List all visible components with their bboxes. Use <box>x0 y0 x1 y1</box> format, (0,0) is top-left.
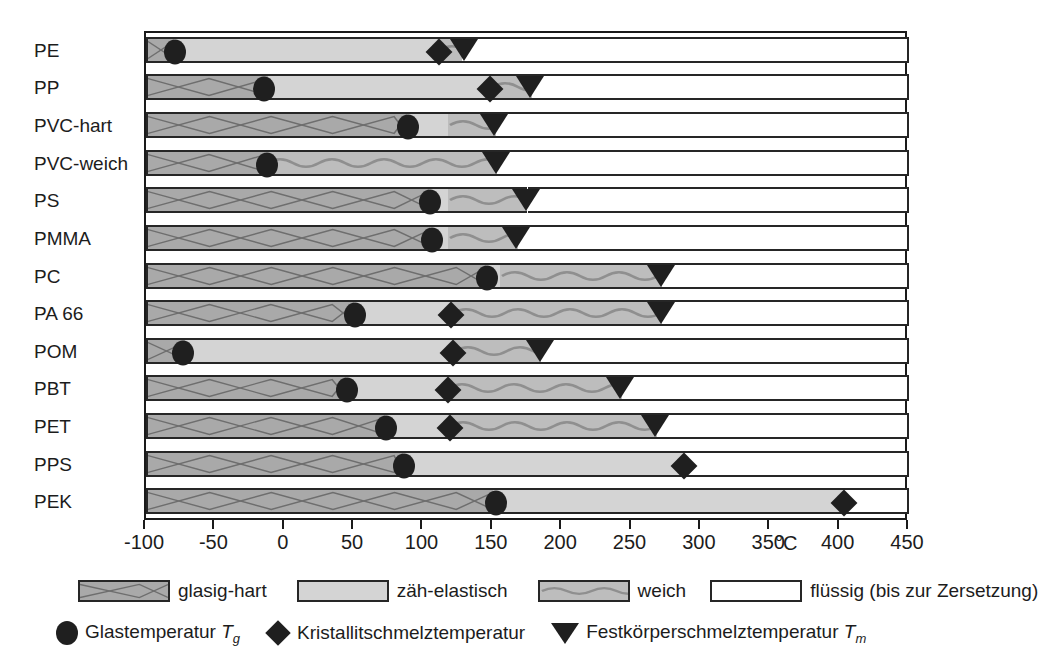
solid-melt-marker <box>647 302 675 324</box>
plot-area <box>144 31 907 520</box>
glass-temperature-marker <box>256 152 278 177</box>
segment-glasig <box>146 375 346 401</box>
segment-weich <box>265 150 497 176</box>
legend-marker-label: Kristallitschmelztemperatur <box>297 622 525 644</box>
legend-marker-circle-icon <box>56 621 78 645</box>
segment-glasig <box>146 74 268 100</box>
glass-temperature-marker <box>419 190 441 215</box>
glass-temperature-marker <box>164 39 186 64</box>
segment-weich <box>448 413 656 439</box>
legend-swatch-empty <box>710 580 802 602</box>
segment-fluessig <box>462 37 909 63</box>
axis-tick <box>490 520 492 529</box>
glass-temperature-marker <box>336 378 358 403</box>
segment-fluessig <box>541 338 909 364</box>
legend-markers-row: Glastemperatur TgKristallitschmelztemper… <box>56 618 892 648</box>
category-label: PET <box>34 417 71 436</box>
legend-marker-label: Glastemperatur Tg <box>85 621 240 646</box>
glass-temperature-marker <box>172 340 194 365</box>
bar-row <box>146 112 905 138</box>
segment-glasig <box>146 413 385 439</box>
solid-melt-marker <box>516 76 544 98</box>
segment-zaeh <box>493 488 844 514</box>
axis-tick-label: 250 <box>613 532 646 552</box>
segment-fluessig <box>518 225 909 251</box>
segment-glasig <box>146 451 403 477</box>
solid-melt-marker <box>647 265 675 287</box>
segment-weich <box>447 375 622 401</box>
segment-zaeh <box>268 74 490 100</box>
axis-tick <box>282 520 284 529</box>
solid-melt-marker <box>502 227 530 249</box>
segment-fluessig <box>528 187 910 213</box>
legend-symbol: T <box>221 621 233 642</box>
segment-glasig <box>146 263 486 289</box>
segment-zaeh <box>354 300 451 326</box>
glass-temperature-marker <box>393 453 415 478</box>
segment-fluessig <box>622 375 909 401</box>
segment-zaeh <box>403 451 685 477</box>
segment-fluessig <box>496 112 909 138</box>
segment-weich <box>451 300 662 326</box>
axis-unit-label: °C <box>775 532 797 555</box>
axis-tick-label: 50 <box>341 532 363 552</box>
axis-tick-label: 200 <box>543 532 576 552</box>
segment-weich <box>500 263 662 289</box>
legend-marker-text: Glastemperatur <box>85 621 221 642</box>
glass-temperature-marker <box>253 77 275 102</box>
category-label: PA 66 <box>34 304 83 323</box>
segment-zaeh <box>346 375 447 401</box>
category-label: PC <box>34 267 60 286</box>
bar-row <box>146 263 905 289</box>
solid-melt-marker <box>480 114 508 136</box>
bar-row <box>146 451 905 477</box>
glass-temperature-marker <box>397 115 419 140</box>
segment-glasig <box>146 112 407 138</box>
glass-temperature-marker <box>375 415 397 440</box>
glass-temperature-marker <box>476 265 498 290</box>
legend-marker-triangle-icon <box>551 623 579 644</box>
glass-temperature-marker <box>344 303 366 328</box>
segment-fluessig <box>497 150 909 176</box>
segment-fluessig <box>684 451 909 477</box>
segment-glasig <box>146 187 429 213</box>
category-label: PBT <box>34 379 71 398</box>
segment-fluessig <box>657 413 909 439</box>
solid-melt-marker <box>641 415 669 437</box>
segment-glasig <box>146 150 265 176</box>
legend-label: glasig-hart <box>178 580 267 602</box>
axis-tick <box>351 520 353 529</box>
category-label: PP <box>34 78 59 97</box>
category-label: PS <box>34 191 59 210</box>
legend-swatch-plain <box>297 580 389 602</box>
category-label: PE <box>34 41 59 60</box>
segment-fluessig <box>532 74 909 100</box>
axis-tick-label: -100 <box>124 532 164 552</box>
axis-tick-label: 400 <box>821 532 854 552</box>
glass-temperature-marker <box>421 227 443 252</box>
axis-tick <box>837 520 839 529</box>
segment-glasig <box>146 300 354 326</box>
axis-tick <box>420 520 422 529</box>
axis-tick <box>767 520 769 529</box>
category-label: PEK <box>34 492 72 511</box>
legend-swatch-wave <box>538 580 630 602</box>
axis-tick <box>212 520 214 529</box>
axis-tick <box>143 520 145 529</box>
bar-row <box>146 413 905 439</box>
bar-row <box>146 375 905 401</box>
legend-marker-label: Festkörperschmelztemperatur Tm <box>586 621 866 646</box>
legend-symbol-subscript: g <box>233 630 240 645</box>
legend-label: flüssig (bis zur Zersetzung) <box>810 580 1038 602</box>
category-label: PMMA <box>34 229 91 248</box>
axis-tick <box>698 520 700 529</box>
legend-marker-diamond-icon <box>265 620 290 645</box>
axis-tick <box>629 520 631 529</box>
solid-melt-marker <box>606 377 634 399</box>
segment-zaeh <box>174 37 438 63</box>
chart-legend: glasig-hartzäh-elastisch weichflüssig (b… <box>0 578 1012 668</box>
solid-melt-marker <box>512 189 540 211</box>
axis-tick <box>559 520 561 529</box>
axis-tick-label: 0 <box>277 532 288 552</box>
